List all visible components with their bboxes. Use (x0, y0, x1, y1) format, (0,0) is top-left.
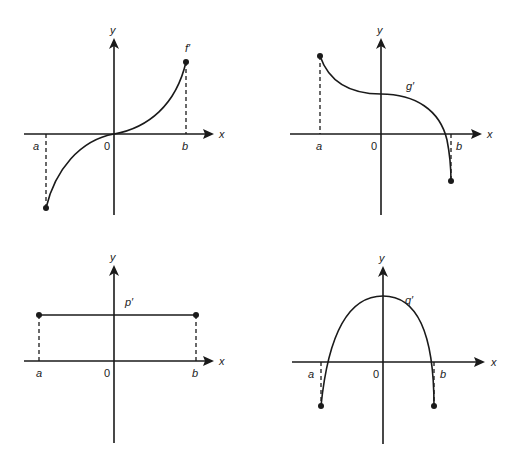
a-label: a (316, 140, 322, 152)
x-label: x (486, 128, 493, 140)
endpoint-b (183, 59, 189, 65)
curve-label: q′ (405, 294, 414, 306)
endpoint-a (36, 312, 42, 318)
origin-label: 0 (371, 140, 377, 152)
b-label: b (192, 367, 198, 379)
a-label: a (308, 368, 314, 380)
endpoint-b (193, 312, 199, 318)
a-label: a (33, 140, 39, 152)
panel-g-prime: y x g′ a 0 b (290, 24, 493, 215)
origin-label: 0 (104, 140, 110, 152)
q-prime-curve (321, 296, 434, 406)
curve-label: g′ (406, 80, 415, 92)
derivative-graphs-figure: y x f′ a 0 b y x g′ a 0 b y x p′ (0, 0, 518, 453)
curve-label: f′ (185, 42, 191, 54)
endpoint-b (448, 178, 454, 184)
b-label: b (456, 140, 462, 152)
endpoint-a (43, 205, 49, 211)
y-label: y (109, 251, 117, 263)
endpoint-b (431, 403, 437, 409)
y-label: y (109, 24, 117, 36)
panel-p-prime: y x p′ a 0 b (24, 251, 225, 443)
a-label: a (36, 367, 42, 379)
x-label: x (218, 355, 225, 367)
panel-q-prime: y x q′ a 0 b (292, 252, 497, 444)
f-prime-curve (46, 62, 186, 208)
y-label: y (376, 24, 384, 36)
endpoint-a (317, 53, 323, 59)
b-label: b (440, 368, 446, 380)
x-label: x (490, 356, 497, 368)
b-label: b (182, 140, 188, 152)
g-prime-curve (320, 56, 451, 181)
origin-label: 0 (104, 367, 110, 379)
curve-label: p′ (124, 296, 134, 308)
panel-f-prime: y x f′ a 0 b (24, 24, 225, 215)
x-label: x (218, 128, 225, 140)
y-label: y (378, 252, 386, 264)
origin-label: 0 (373, 368, 379, 380)
endpoint-a (318, 403, 324, 409)
